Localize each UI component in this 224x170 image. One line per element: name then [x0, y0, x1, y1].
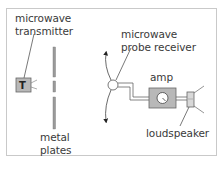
transmitter-label-line2: transmitter: [15, 25, 73, 38]
receiver-amp-cable: [118, 83, 149, 100]
transmitter-label-line1: microwave: [15, 12, 71, 25]
plates-label-line1: metal: [40, 131, 70, 144]
amp-box: [149, 88, 176, 108]
receiver-label-line2: probe receiver: [121, 41, 196, 54]
amp-speaker-cable: [176, 97, 187, 100]
receiver-label-line1: microwave: [121, 28, 177, 41]
metal-plates: [53, 47, 56, 129]
plates-label-line2: plates: [40, 144, 71, 157]
receiver-movement-arrow-down: [106, 90, 111, 121]
receiver-movement-arrow-up: [106, 53, 111, 80]
loudspeaker-leader-line: [180, 107, 189, 126]
loudspeaker: [187, 86, 204, 113]
transmitter-leader-line: [24, 34, 34, 78]
transmitter-box-label: T: [19, 79, 26, 92]
amp-label: amp: [150, 71, 173, 84]
microwave-experiment-diagram: microwave transmitter T metal plates mic…: [0, 0, 224, 170]
loudspeaker-label: loudspeaker: [146, 127, 209, 140]
receiver-probe: [108, 80, 118, 90]
